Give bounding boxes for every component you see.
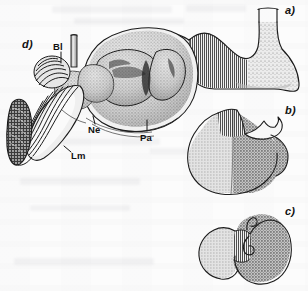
panel-d-illustration [7,28,198,165]
panel-a-esophagus [259,9,277,22]
panel-label-a: a) [285,4,295,16]
panel-b-hatched-band [218,109,245,137]
panel-c-illustration [199,214,291,284]
part-label-bl: Bl [53,41,63,52]
figure-illustration [0,0,308,291]
panel-b-illustration [188,109,288,194]
leader-lm [64,146,71,152]
panel-label-c: c) [285,205,295,217]
part-label-lm: Lm [71,150,86,161]
panel-d-coil-bl [34,56,70,88]
panel-label-b: b) [285,104,296,116]
panel-d-duct-tube [71,35,77,67]
part-label-pa: Pa [140,132,152,143]
panel-c-light-lobe [199,228,235,279]
panel-label-d: d) [22,38,33,50]
anatomical-figure-plate: d) a) b) c) Bl Ne Pa Lm [0,0,308,291]
panel-a-esophagus-rim [258,8,278,10]
panel-a-stippled-region [248,22,299,90]
part-label-ne: Ne [88,124,101,135]
